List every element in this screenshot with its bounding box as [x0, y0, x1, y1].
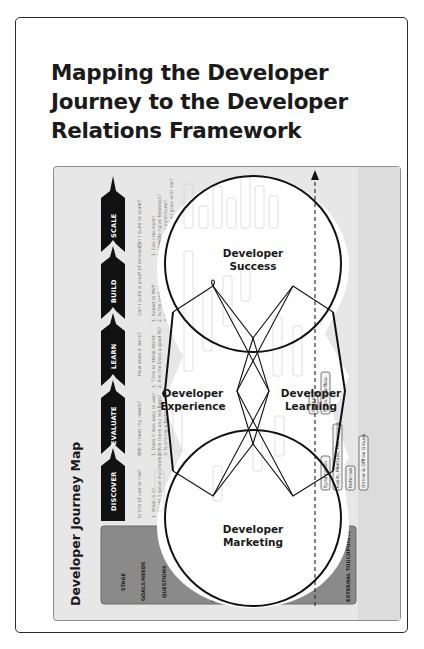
label-learning-line2: Learning — [285, 400, 337, 412]
svg-text:Referrals: Referrals — [348, 467, 353, 488]
label-experience-line1: Developer — [163, 387, 224, 399]
svg-text:1. Time to 'Hello World': 1. Time to 'Hello World' — [151, 335, 156, 388]
stage-label-evaluate: EVALUATE — [110, 406, 118, 445]
stage-label-build: BUILD — [110, 279, 118, 303]
stage-label-discover: DISCOVER — [110, 472, 118, 512]
diagram-canvas: Developer Journey Map STAGE GOALS/NEEDS … — [53, 166, 401, 621]
label-experience-line2: Experience — [160, 400, 225, 412]
journey-framework-figure: Developer Journey Map STAGE GOALS/NEEDS … — [53, 166, 401, 621]
svg-text:2. Are the Docs a good fit?: 2. Are the Docs a good fit? — [157, 326, 162, 388]
row-header-goals: GOALS/NEEDS — [140, 561, 146, 601]
svg-text:Online & Offline Groups: Online & Offline Groups — [361, 433, 366, 488]
label-marketing-line2: Marketing — [223, 536, 283, 548]
svg-text:1. Speed to MVP: 1. Speed to MVP — [151, 284, 156, 322]
label-success-line2: Success — [229, 260, 276, 272]
goal-evaluate: Will it meet my needs? — [137, 401, 142, 456]
label-learning-line1: Developer — [281, 387, 342, 399]
row-header-stage: STAGE — [120, 572, 126, 591]
row-header-questions: QUESTIONS — [161, 565, 167, 598]
goal-learn: How does it work? — [137, 332, 142, 376]
stage-label-scale: SCALE — [110, 213, 118, 238]
label-success-line1: Developer — [223, 247, 284, 259]
journey-map-title: Developer Journey Map — [68, 442, 83, 606]
stage-label-learn: LEARN — [110, 343, 118, 369]
article-card: Mapping the Developer Journey to the Dev… — [15, 17, 408, 633]
goal-build: Can I build a proof of concept? — [137, 242, 142, 316]
card-title: Mapping the Developer Journey to the Dev… — [51, 58, 391, 145]
svg-text:1. Can I do more?: 1. Can I do more? — [151, 215, 156, 256]
page-margin — [358, 167, 400, 620]
goal-scale: Can I build to scale? — [137, 199, 142, 248]
goal-discover: Is this of use to me? — [137, 469, 142, 518]
svg-text:1. Does it look easy to use?: 1. Does it look easy to use? — [151, 392, 156, 456]
label-marketing-line1: Developer — [223, 523, 284, 535]
